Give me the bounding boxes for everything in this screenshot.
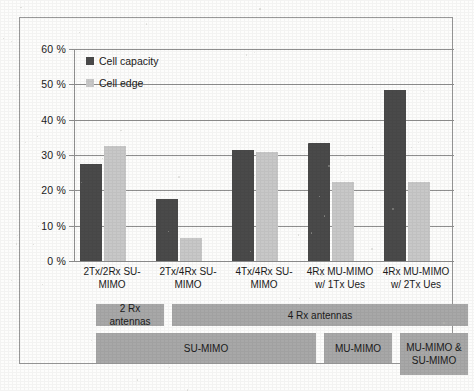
scan-speck (116, 322, 117, 323)
scan-speck (246, 54, 248, 56)
scan-speck (324, 215, 325, 216)
gridline (74, 261, 454, 262)
scan-speck (308, 143, 309, 144)
banner-row-antennas: 2 Rx antennas4 Rx antennas (39, 304, 473, 329)
scan-speck (299, 298, 300, 299)
scan-speck (16, 243, 17, 244)
y-axis-tick-label: 20 % (41, 184, 66, 196)
legend-swatch-cell-edge (86, 79, 94, 87)
banner-row-mimo-mode: SU-MIMOMU-MIMOMU-MIMO &SU-MIMO (39, 333, 473, 375)
banner-label: 2 Rx antennas (96, 304, 164, 326)
scan-speck (321, 274, 323, 276)
bar (332, 182, 354, 262)
chart-frame: 0 %10 %20 %30 %40 %50 %60 % Cell capacit… (19, 17, 453, 364)
bar-group (302, 49, 378, 261)
bar (104, 146, 126, 261)
scan-speck (463, 131, 464, 132)
scan-speck (17, 235, 18, 236)
scan-speck (11, 41, 12, 42)
bar (384, 90, 406, 261)
scan-speck (168, 231, 169, 232)
x-axis-category-label: 2Tx/2Rx SU-MIMO (74, 265, 150, 291)
scan-speck (27, 261, 28, 262)
scan-speck (11, 280, 12, 281)
banner-label: SU-MIMO (96, 333, 316, 363)
scan-speck (371, 248, 373, 250)
scan-speck (417, 224, 418, 225)
legend-item: Cell capacity (86, 55, 159, 67)
y-axis-tick-label: 40 % (41, 114, 66, 126)
scan-speck (299, 304, 300, 305)
scan-speck (319, 196, 320, 197)
scan-speck (120, 130, 121, 131)
bar (232, 150, 254, 261)
banner-label: MU-MIMO &SU-MIMO (400, 333, 468, 375)
banner-label: 4 Rx antennas (172, 304, 468, 326)
chart-page: 0 %10 %20 %30 %40 %50 %60 % Cell capacit… (0, 0, 474, 391)
bar-group (378, 49, 454, 261)
bar-group (226, 49, 302, 261)
scan-speck (81, 182, 82, 183)
scan-speck (42, 284, 43, 285)
bar (156, 199, 178, 261)
legend-swatch-cell-capacity (86, 57, 94, 65)
scan-speck (250, 251, 251, 252)
x-axis-category-label: 4Tx/4Rx SU-MIMO (226, 265, 302, 291)
scan-speck (137, 379, 139, 381)
scan-speck (102, 158, 103, 159)
scan-speck (259, 8, 261, 10)
scan-speck (418, 142, 419, 143)
y-axis-tick-label: 50 % (41, 78, 66, 90)
bar (180, 238, 202, 261)
scan-speck (20, 7, 21, 8)
bar-group (150, 49, 226, 261)
scan-speck (328, 165, 330, 167)
bar (80, 164, 102, 261)
y-axis-tick-label: 30 % (41, 149, 66, 161)
banner-label: MU-MIMO (324, 333, 392, 363)
x-axis-category-label: 4Rx MU-MIMOw/ 1Tx Ues (302, 265, 378, 291)
y-axis-tick-label: 10 % (41, 220, 66, 232)
scan-speck (110, 234, 111, 235)
legend-label-cell-edge: Cell edge (99, 77, 143, 89)
y-axis-tick-label: 60 % (41, 43, 66, 55)
y-axis-tick-label: 0 % (47, 255, 66, 267)
scan-speck (232, 379, 233, 380)
x-axis-category-label: 2Tx/4Rx SU-MIMO (150, 265, 226, 291)
scan-speck (17, 85, 18, 86)
scan-speck (273, 169, 274, 170)
y-axis-tick (69, 261, 74, 262)
scan-speck (110, 239, 111, 240)
bar (408, 182, 430, 262)
legend-label-cell-capacity: Cell capacity (99, 55, 159, 67)
chart-legend: Cell capacity Cell edge (86, 55, 159, 99)
scan-speck (344, 155, 346, 157)
bar (256, 152, 278, 261)
x-axis-category-label: 4Rx MU-MIMOw/ 2Tx Ues (378, 265, 454, 291)
legend-item: Cell edge (86, 77, 159, 89)
grouping-banners: 2 Rx antennas4 Rx antennas SU-MIMOMU-MIM… (39, 304, 473, 379)
bar (308, 143, 330, 261)
scan-speck (221, 300, 222, 301)
plot-area: 0 %10 %20 %30 %40 %50 %60 % Cell capacit… (74, 49, 454, 261)
scan-speck (37, 136, 38, 137)
x-axis-category-labels: 2Tx/2Rx SU-MIMO2Tx/4Rx SU-MIMO4Tx/4Rx SU… (74, 265, 454, 299)
scan-speck (392, 208, 394, 210)
scan-speck (254, 52, 255, 53)
